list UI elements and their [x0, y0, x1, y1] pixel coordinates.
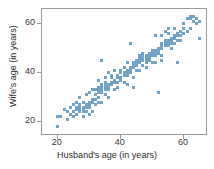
- data-point: [123, 81, 126, 84]
- plot-area: [41, 8, 207, 135]
- data-point: [66, 118, 69, 121]
- data-point: [104, 76, 107, 79]
- data-point: [198, 37, 201, 40]
- data-point: [198, 20, 201, 23]
- data-point: [145, 66, 148, 69]
- data-point: [110, 74, 113, 77]
- y-tick-mark: [37, 121, 41, 122]
- data-point: [59, 115, 62, 118]
- data-point: [179, 39, 182, 42]
- data-point: [88, 113, 91, 116]
- data-point: [97, 96, 100, 99]
- data-point: [78, 96, 81, 99]
- data-point: [82, 115, 85, 118]
- data-point: [157, 91, 160, 94]
- data-point: [154, 34, 157, 37]
- x-axis-title: Husband's age (in years): [0, 150, 214, 160]
- data-point: [126, 61, 129, 64]
- data-point: [167, 27, 170, 30]
- data-point: [129, 71, 132, 74]
- data-point: [56, 125, 59, 128]
- data-point: [132, 76, 135, 79]
- y-axis-title: Wife's age (in years): [8, 6, 18, 126]
- y-tick-mark: [37, 23, 41, 24]
- data-point: [129, 42, 132, 45]
- data-point: [170, 47, 173, 50]
- data-point: [88, 106, 91, 109]
- data-point: [160, 34, 163, 37]
- y-tick-mark: [37, 72, 41, 73]
- data-point: [116, 86, 119, 89]
- data-points-layer: [42, 9, 206, 134]
- data-point: [138, 69, 141, 72]
- data-point: [160, 59, 163, 62]
- data-point: [113, 69, 116, 72]
- data-point: [182, 22, 185, 25]
- data-point: [173, 27, 176, 30]
- data-point: [97, 79, 100, 82]
- x-tick-label: 40: [108, 137, 132, 148]
- scatter-plot-figure: 204060 204060 Husband's age (in years) W…: [0, 0, 214, 169]
- data-point: [176, 61, 179, 64]
- data-point: [167, 32, 170, 35]
- data-point: [100, 59, 103, 62]
- data-point: [91, 110, 94, 113]
- data-point: [160, 54, 163, 57]
- data-point: [132, 86, 135, 89]
- x-tick-label: 20: [45, 137, 69, 148]
- y-axis-title-wrapper: Wife's age (in years): [8, 6, 20, 126]
- data-point: [104, 93, 107, 96]
- x-tick-label: 60: [171, 137, 195, 148]
- data-point: [107, 96, 110, 99]
- data-point: [107, 88, 110, 91]
- data-point: [97, 101, 100, 104]
- data-point: [189, 27, 192, 30]
- data-point: [154, 61, 157, 64]
- data-point: [126, 83, 129, 86]
- data-point: [100, 101, 103, 104]
